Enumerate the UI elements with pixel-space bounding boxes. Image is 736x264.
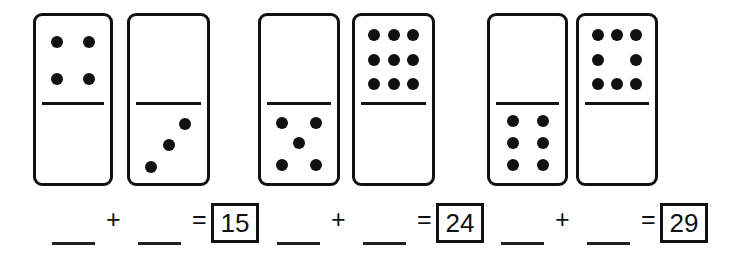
domino-3-bottom-pip [310,159,322,171]
domino-4-top-pip [368,54,380,66]
domino-4-top-pip [368,29,380,41]
domino-3-bottom-pip [293,137,305,149]
domino-5-bottom-half [490,103,565,183]
equation-1-equals-symbol: = [192,207,207,232]
domino-2-bottom-pip [163,139,175,151]
equation-2-answer-box: 24 [436,203,484,243]
equation-2-plus-symbol: + [331,207,346,232]
domino-1-top-pip [83,73,95,85]
domino-1-top-pip [51,73,63,85]
domino-4-top-pip [388,78,400,90]
domino-3-bottom-pip [276,117,288,129]
domino-3-bottom-pip [310,117,322,129]
equation-3-addend1-blank[interactable] [501,242,544,245]
domino-6-top-pip [630,54,642,66]
domino-6-top-pip [611,78,623,90]
domino-6-bottom-half [579,103,655,183]
domino-6-top-half [579,16,655,103]
domino-6-top-pip [592,29,604,41]
equation-2-addend1-blank[interactable] [277,242,320,245]
domino-5 [487,13,568,186]
equation-3-equals-symbol: = [641,207,656,232]
domino-6-top-pip [630,29,642,41]
domino-5-bottom-pip [537,159,549,171]
domino-1-bottom-half [36,103,110,183]
domino-4-top-pip [388,54,400,66]
domino-6-top-pip [611,29,623,41]
equation-2-addend2-blank[interactable] [363,242,406,245]
equation-1-plus-symbol: + [106,207,121,232]
domino-4 [352,13,435,186]
domino-4-top-pip [368,78,380,90]
domino-4-top-pip [407,29,419,41]
domino-3-top-half [261,16,337,103]
domino-1-top-half [36,16,110,103]
domino-1-top-pip [51,36,63,48]
domino-3-bottom-pip [276,159,288,171]
domino-5-top-half [490,16,565,103]
domino-4-top-pip [388,29,400,41]
domino-3-bottom-half [261,103,337,183]
domino-2-top-half [130,16,207,103]
domino-5-bottom-pip [537,115,549,127]
domino-5-bottom-pip [537,137,549,149]
equation-1-addend1-blank[interactable] [52,242,95,245]
equation-3-addend2-blank[interactable] [587,242,630,245]
domino-4-bottom-half [355,103,432,183]
domino-6-top-pip [630,78,642,90]
domino-5-bottom-pip [507,159,519,171]
equation-1-addend2-blank[interactable] [138,242,181,245]
domino-2 [127,13,210,186]
domino-1-top-pip [83,36,95,48]
domino-4-top-pip [407,78,419,90]
domino-4-top-pip [407,54,419,66]
domino-4-top-half [355,16,432,103]
domino-addition-worksheet: +=15+=24+=29 [0,0,736,264]
equation-3-answer-box: 29 [660,203,708,243]
equation-3-plus-symbol: + [555,207,570,232]
domino-1 [33,13,113,186]
domino-5-bottom-pip [507,115,519,127]
equation-2-equals-symbol: = [417,207,432,232]
equation-1-answer-box: 15 [211,203,259,243]
domino-2-bottom-pip [179,118,191,130]
domino-2-bottom-half [130,103,207,183]
domino-2-bottom-pip [145,161,157,173]
domino-5-bottom-pip [507,137,519,149]
domino-6-top-pip [592,78,604,90]
domino-6-top-pip [592,54,604,66]
domino-3 [258,13,340,186]
domino-6 [576,13,658,186]
